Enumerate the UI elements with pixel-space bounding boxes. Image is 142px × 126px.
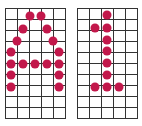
grid-cell <box>78 108 90 119</box>
grid-cell <box>114 9 126 20</box>
grid-cell <box>114 64 126 75</box>
grid-cell <box>126 9 138 20</box>
dot-marker <box>26 12 35 21</box>
dot-marker <box>13 37 22 46</box>
grid-cell <box>114 42 126 53</box>
dot-marker <box>91 83 100 92</box>
grid-cell <box>78 75 90 86</box>
grid-cell <box>54 20 66 31</box>
dot-marker <box>7 48 16 57</box>
grid-cell <box>30 31 42 42</box>
grid-cell <box>126 75 138 86</box>
grid-cell <box>42 108 54 119</box>
grid-cell <box>126 42 138 53</box>
grid-cell <box>90 97 102 108</box>
grid-cell <box>114 31 126 42</box>
grid-cell <box>54 108 66 119</box>
grid-cell <box>30 42 42 53</box>
grid-cell <box>78 97 90 108</box>
grid-cell <box>78 64 90 75</box>
dot-marker <box>103 36 112 45</box>
grid-cell <box>102 97 114 108</box>
grid-cell <box>30 108 42 119</box>
grid-cell <box>90 31 102 42</box>
dot-marker <box>103 83 112 92</box>
grid-cell <box>6 97 18 108</box>
grid-cell <box>18 75 30 86</box>
dot-marker <box>103 11 112 20</box>
grid-cell <box>126 64 138 75</box>
dot-marker <box>43 60 52 69</box>
dot-marker <box>55 60 64 69</box>
grid-cell <box>126 97 138 108</box>
grid-cell <box>42 86 54 97</box>
grid-cell <box>126 20 138 31</box>
grid-cell <box>114 108 126 119</box>
grid-cell <box>6 108 18 119</box>
grid-cell <box>18 108 30 119</box>
dot-marker <box>55 48 64 57</box>
grid-cell <box>90 53 102 64</box>
grid-cell <box>102 108 114 119</box>
grid-cell <box>78 42 90 53</box>
dot-marker <box>103 47 112 56</box>
grid-cell <box>90 9 102 20</box>
grid-cell <box>78 31 90 42</box>
grid-cell <box>30 75 42 86</box>
dot-marker <box>37 12 46 21</box>
grid-cell <box>18 86 30 97</box>
grid-cell <box>114 20 126 31</box>
grid-cell <box>90 42 102 53</box>
dot-marker <box>103 24 112 33</box>
dot-marker <box>55 71 64 80</box>
grid-cell <box>78 20 90 31</box>
dot-marker <box>7 71 16 80</box>
grid-cell <box>30 20 42 31</box>
grid-cell <box>6 20 18 31</box>
dot-marker <box>7 60 16 69</box>
grid-cell <box>30 97 42 108</box>
dot-marker <box>31 60 40 69</box>
grid-cell <box>90 64 102 75</box>
grid-cell <box>126 31 138 42</box>
grid-cell <box>54 9 66 20</box>
grid-cell <box>30 86 42 97</box>
dot-marker <box>7 83 16 92</box>
grid-cell <box>126 53 138 64</box>
dot-marker <box>49 37 58 46</box>
dot-marker <box>103 71 112 80</box>
grid-cell <box>18 97 30 108</box>
grid-cell <box>78 53 90 64</box>
dot-marker <box>115 83 124 92</box>
grid-cell <box>114 97 126 108</box>
dot-marker <box>55 83 64 92</box>
grid-cell <box>42 75 54 86</box>
grid-cell <box>6 9 18 20</box>
grid-cell <box>114 53 126 64</box>
grid-cell <box>78 86 90 97</box>
grid-cell <box>42 97 54 108</box>
dot-marker <box>19 25 28 34</box>
grid-cell <box>54 97 66 108</box>
grid-cell <box>90 108 102 119</box>
grid-cell <box>126 86 138 97</box>
dot-marker <box>19 60 28 69</box>
grid-cell <box>78 9 90 20</box>
grid-cell <box>126 108 138 119</box>
dot-marker <box>91 24 100 33</box>
dot-marker <box>103 59 112 68</box>
dot-marker <box>43 25 52 34</box>
